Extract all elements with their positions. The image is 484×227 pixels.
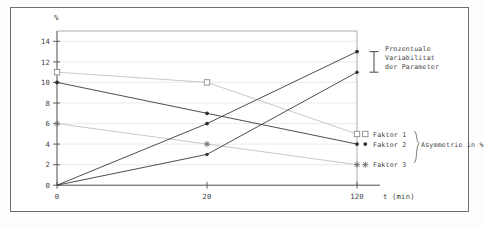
axis-lines (57, 31, 380, 185)
variability-label-line1: Prozentuale (385, 45, 431, 54)
marker-star (54, 121, 60, 127)
marker-dot (355, 50, 359, 54)
marker-dot (205, 153, 208, 156)
asymmetry-brace-label: Asymmetrie in % (421, 141, 484, 150)
marker-dot (55, 81, 59, 85)
marker-dot (205, 111, 209, 115)
plot-area-border (57, 31, 357, 185)
marker-square (54, 70, 59, 75)
y-axis-unit-label: % (54, 13, 59, 22)
y-tick-label-0: 0 (24, 181, 50, 190)
marker-square (354, 131, 359, 136)
legend-marker-star (362, 162, 368, 168)
legend-item-faktor-3: Faktor 3 (373, 161, 406, 170)
y-tick-label-4: 4 (24, 140, 50, 149)
marker-dot (205, 122, 209, 126)
x-tick-label-20: 20 (194, 192, 220, 201)
legend-markers (362, 131, 368, 167)
x-tick-label-120: 120 (344, 192, 370, 201)
legend-item-faktor-1: Faktor 1 (373, 131, 406, 140)
marker-dot (355, 142, 359, 146)
x-axis-title: t (min) (383, 192, 415, 201)
y-tick-label-2: 2 (24, 160, 50, 169)
variability-label-line2: Variabilitat (385, 54, 435, 63)
asymmetry-brace (414, 132, 419, 163)
marker-square (204, 80, 209, 85)
y-tick-label-6: 6 (24, 119, 50, 128)
variability-error-bar (370, 52, 379, 73)
marker-star (204, 141, 210, 147)
y-tick-label-8: 8 (24, 99, 50, 108)
legend-item-faktor-2: Faktor 2 (373, 141, 406, 150)
series-faktor-2 (55, 81, 359, 147)
legend-marker-square (363, 131, 368, 136)
x-tick-label-0: 0 (44, 192, 70, 201)
y-tick-label-14: 14 (24, 37, 50, 46)
y-tick-label-12: 12 (24, 58, 50, 67)
marker-dot (355, 71, 358, 74)
variability-label-line3: der Parameter (385, 63, 439, 72)
y-tick-label-10: 10 (24, 78, 50, 87)
series-variability-b (57, 71, 359, 186)
marker-star (354, 162, 360, 168)
legend-marker-dot (363, 142, 367, 146)
